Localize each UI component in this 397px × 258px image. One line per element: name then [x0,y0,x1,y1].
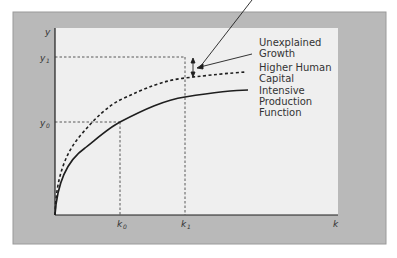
production-function-figure: y k y 1 y 0 k 0 k 1 Unexplained Growth H… [0,0,397,258]
y1-label: y [39,53,46,63]
intensive-production-line3: Function [259,107,302,118]
y0-label: y [39,118,46,128]
intensive-production-line1: Intensive [259,85,305,96]
higher-human-capital-line2: Capital [259,73,294,84]
intensive-production-line2: Production [259,96,312,107]
higher-human-capital-line1: Higher Human [259,62,332,73]
k1-subscript: 1 [187,223,191,230]
y0-subscript: 0 [46,122,50,129]
unexplained-growth-line2: Growth [259,48,295,59]
unexplained-growth-line1: Unexplained [259,37,321,48]
plot-panel [55,28,338,215]
k0-subscript: 0 [123,223,127,230]
y1-subscript: 1 [46,57,50,64]
y-axis-label: y [44,27,51,37]
x-axis-label: k [333,219,339,229]
chart-svg: y k y 1 y 0 k 0 k 1 Unexplained Growth H… [0,0,397,258]
